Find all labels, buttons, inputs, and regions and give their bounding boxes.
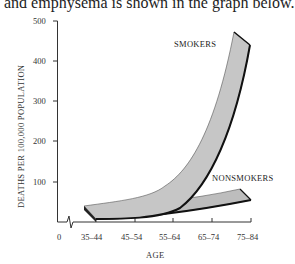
x-axis-title: AGE <box>146 250 164 260</box>
y-tick-500: 500 <box>33 16 46 26</box>
y-tick-300: 300 <box>33 96 46 106</box>
y-axis-title: DEATHS PER 100,000 POPULATION <box>16 65 26 208</box>
y-ticks <box>53 21 58 182</box>
x-tick-55-64: 55–64 <box>159 232 181 242</box>
nonsmokers-label: NONSMOKERS <box>212 173 274 183</box>
x-axis <box>58 216 252 228</box>
y-tick-200: 200 <box>33 136 46 146</box>
x-tick-75-84: 75–84 <box>237 232 259 242</box>
x-tick-65-74: 65–74 <box>198 232 220 242</box>
x-tick-35-44: 35–44 <box>81 232 103 242</box>
chart: 500 400 300 200 100 DEATHS PER 100,000 P… <box>0 0 295 264</box>
x-origin-label: 0 <box>57 232 61 242</box>
x-tick-45-54: 45–54 <box>121 232 143 242</box>
y-tick-400: 400 <box>33 56 46 66</box>
y-tick-100: 100 <box>33 177 46 187</box>
smokers-label: SMOKERS <box>174 39 216 49</box>
